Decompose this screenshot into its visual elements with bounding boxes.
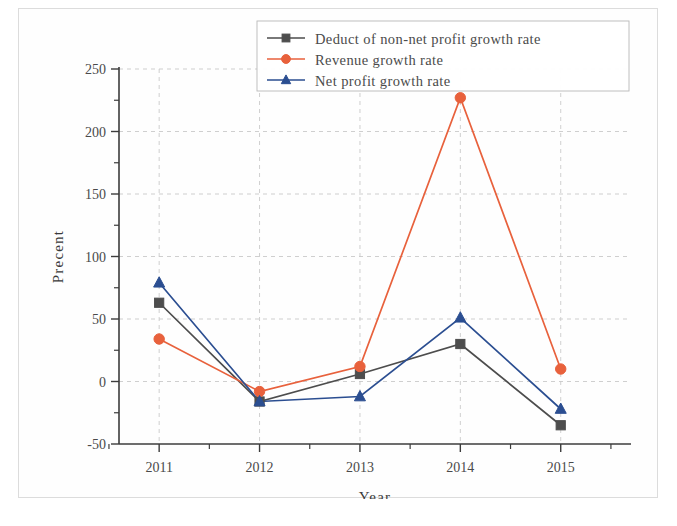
data-point-square-2015 (556, 421, 565, 430)
legend-label-2: Net profit growth rate (315, 73, 451, 89)
x-axis-title: Year (359, 489, 391, 499)
y-tick-label: 200 (85, 125, 106, 140)
y-tick-label: -50 (87, 437, 106, 452)
legend-marker-circle-marker-icon (282, 55, 291, 64)
y-tick-label: 250 (85, 62, 106, 77)
x-tick-label: 2014 (446, 460, 474, 475)
y-tick-label: 100 (85, 250, 106, 265)
data-point-circle-2015 (556, 364, 566, 374)
data-point-square-2011 (155, 298, 164, 307)
x-tick-label: 2013 (346, 460, 374, 475)
data-point-square-2014 (456, 339, 465, 348)
x-tick-label: 2011 (145, 460, 172, 475)
y-tick-label: 50 (92, 312, 106, 327)
legend-label-1: Revenue growth rate (315, 52, 443, 68)
data-point-circle-2014 (455, 93, 465, 103)
data-point-triangle-2013 (354, 391, 365, 401)
y-tick-label: 0 (99, 375, 106, 390)
data-point-circle-2013 (355, 361, 365, 371)
legend-marker-square-marker-icon (282, 34, 290, 42)
y-tick-label: 150 (85, 187, 106, 202)
line-chart: 250200150100500-5020112012201320142015Ye… (19, 9, 659, 499)
x-tick-label: 2015 (547, 460, 575, 475)
legend-label-0: Deduct of non-net profit growth rate (315, 31, 541, 47)
data-point-circle-2011 (154, 334, 164, 344)
data-point-triangle-2014 (455, 312, 466, 322)
data-point-triangle-2011 (154, 277, 165, 287)
x-tick-label: 2012 (246, 460, 274, 475)
y-axis-title: Precent (50, 230, 66, 283)
figure-container: 250200150100500-5020112012201320142015Ye… (18, 8, 658, 498)
